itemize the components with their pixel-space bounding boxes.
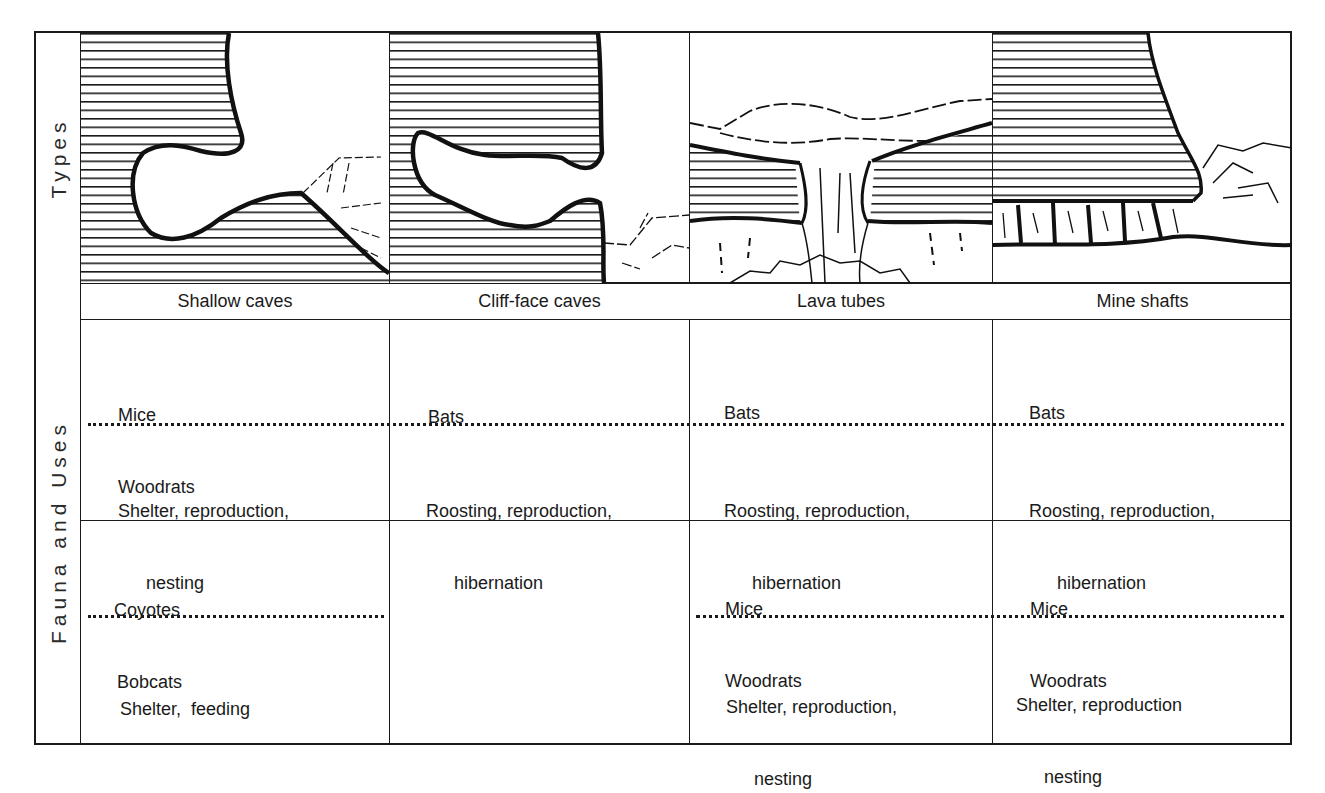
uses-cell: Shelter, reproduction, nesting xyxy=(726,647,897,793)
uses-text: Shelter, reproduction xyxy=(1016,693,1182,717)
types-row-label: Types xyxy=(36,33,82,283)
column-divider xyxy=(689,319,690,745)
shallow-cave-illustration xyxy=(81,33,389,283)
uses-cell: Shelter, reproduction nesting xyxy=(1016,645,1182,793)
uses-text: Shelter, reproduction, xyxy=(726,695,897,719)
uses-text: Roosting, reproduction, xyxy=(1029,499,1215,523)
fauna-item: Mice xyxy=(1030,597,1107,621)
column-label-lava-tubes: Lava tubes xyxy=(690,283,992,319)
column-divider xyxy=(389,319,390,745)
fauna-item: Mice xyxy=(118,403,195,427)
fauna-item: Bats xyxy=(724,401,760,425)
uses-cell: Roosting, reproduction, hibernation xyxy=(426,451,612,643)
uses-text: Roosting, reproduction, xyxy=(724,499,910,523)
fauna-uses-row-label: Fauna and Uses xyxy=(36,319,82,745)
types-label-text: Types xyxy=(47,117,71,198)
uses-text: nesting xyxy=(726,767,897,791)
fauna-item: Coyotes xyxy=(114,598,182,622)
uses-text: nesting xyxy=(1016,765,1182,789)
column-label-cliff-face-caves: Cliff-face caves xyxy=(390,283,689,319)
column-divider xyxy=(992,319,993,745)
table-top-line xyxy=(80,319,1292,320)
cliff-face-cave-illustration xyxy=(390,33,689,283)
fauna-item: Bats xyxy=(1029,401,1065,425)
dotted-separator-row1 xyxy=(88,423,1284,426)
diagram-frame: Types Fauna and Uses xyxy=(34,31,1292,745)
lava-tube-illustration xyxy=(690,33,992,283)
fauna-item: Mice xyxy=(725,597,802,621)
mine-shaft-illustration xyxy=(993,33,1292,283)
uses-text: Shelter, feeding xyxy=(120,697,250,721)
uses-text: Shelter, reproduction, xyxy=(118,499,289,523)
uses-text: Roosting, reproduction, xyxy=(426,499,612,523)
column-label-shallow-caves: Shallow caves xyxy=(81,283,389,319)
uses-text: hibernation xyxy=(426,571,612,595)
fauna-uses-label-text: Fauna and Uses xyxy=(47,420,71,644)
uses-cell: Shelter, feeding xyxy=(120,649,250,769)
column-label-mine-shafts: Mine shafts xyxy=(993,283,1292,319)
fauna-item: Bats xyxy=(428,405,464,429)
